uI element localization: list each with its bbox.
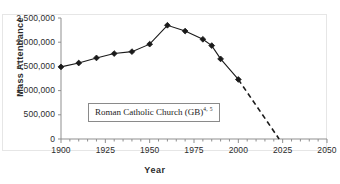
y-tick-label: 1,500,000	[0, 61, 55, 71]
series-label-box: Roman Catholic Church (GB)4, 5	[88, 103, 220, 122]
x-tick-label: 1950	[130, 145, 170, 155]
y-tick-label: 0	[0, 134, 55, 144]
chart-container: 0500,0001,000,0001,500,0002,000,0002,500…	[0, 0, 340, 184]
x-tick-label: 1900	[41, 145, 81, 155]
y-tick-label: 500,000	[0, 109, 55, 119]
x-tick-label: 2025	[263, 145, 303, 155]
series-label-text: Roman Catholic Church (GB)	[95, 107, 203, 117]
y-tick-label: 2,500,000	[0, 13, 55, 23]
series-label-footnote: 4, 5	[203, 106, 212, 112]
y-tick-label: 2,000,000	[0, 37, 55, 47]
y-axis-title: Mass Attendance	[15, 4, 25, 110]
x-tick-label: 2000	[218, 145, 258, 155]
x-tick-label: 1925	[85, 145, 125, 155]
y-tick-label: 1,000,000	[0, 85, 55, 95]
x-tick-label: 2050	[307, 145, 340, 155]
x-tick-label: 1975	[174, 145, 214, 155]
x-axis-title: Year	[115, 165, 195, 175]
